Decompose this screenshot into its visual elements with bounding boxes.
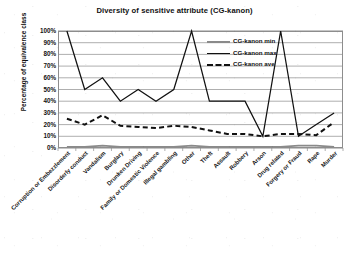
x-tick-label-text: Rape [306, 150, 320, 164]
legend-item: CG-kanon max [207, 48, 312, 59]
y-tick-label: 40% [28, 98, 56, 104]
x-tick-label-text: Theft [199, 150, 213, 164]
y-axis-tick-labels: 100%90%80%70%60%50%40%30%20%10%0% [28, 28, 56, 150]
chart-figure: Diversity of sensitive attribute (CG-kan… [0, 0, 349, 257]
chart-title: Diversity of sensitive attribute (CG-kan… [0, 6, 349, 15]
y-axis-title: Percentage of equivalence class [20, 7, 27, 117]
y-tick-label: 80% [28, 51, 56, 57]
x-tick-label-text: Illegal gambling [142, 150, 178, 186]
chart-legend: CG-kanon minCG-kanon maxCG-kanon ave [207, 36, 312, 70]
x-tick-label-text: Murder [320, 150, 338, 168]
y-tick-label: 100% [28, 28, 56, 34]
legend-item: CG-kanon ave [207, 59, 312, 70]
y-tick-label: 0% [28, 145, 56, 151]
y-tick-label: 60% [28, 75, 56, 81]
y-tick-label: 50% [28, 87, 56, 93]
y-tick-label: 10% [28, 133, 56, 139]
x-axis-tick-labels: Corruption or EmbezzlementDisorderly con… [58, 150, 349, 257]
legend-item: CG-kanon min [207, 36, 312, 47]
legend-swatch [207, 53, 230, 55]
legend-label: CG-kanon max [233, 48, 277, 58]
y-tick-label: 30% [28, 110, 56, 116]
y-tick-label: 90% [28, 40, 56, 46]
x-tick-label-text: Forgery or Fraud [265, 150, 303, 188]
y-tick-label: 70% [28, 63, 56, 69]
legend-swatch [207, 64, 230, 66]
legend-label: CG-kanon min [233, 36, 275, 46]
x-tick-label-text: Other [180, 150, 195, 165]
x-tick-label-text: Arson [251, 150, 267, 166]
legend-swatch [207, 41, 230, 44]
legend-label: CG-kanon ave [233, 59, 275, 69]
y-tick-label: 20% [28, 122, 56, 128]
